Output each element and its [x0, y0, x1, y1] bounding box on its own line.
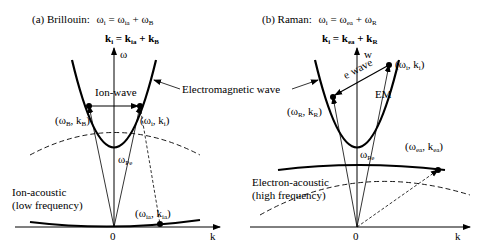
panel-a-incident-point: [137, 103, 143, 109]
panel-a-dashed-curve: [30, 133, 200, 156]
panel-a-scattered-label: (ωB, kB): [55, 114, 90, 128]
panel-a-k-equation: ki = kia + kB: [105, 32, 159, 46]
panel-b-scattered-label: (ωR, kR): [287, 105, 322, 119]
panel-a-incident-label: (ωi, ki): [140, 114, 170, 128]
panel-a-y-label: ω: [120, 48, 127, 60]
panel-a-wpe-label: ωPe: [118, 153, 132, 167]
panel-b-origin: 0: [353, 230, 359, 242]
panel-b-em-label: EM: [375, 88, 392, 100]
panel-b-electron-acoustic-sublabel: (high frequency): [252, 189, 326, 202]
panel-a-x-label: k: [210, 230, 216, 242]
panel-a-scattered-point: [86, 103, 92, 109]
panel-b-scattered-point: [330, 94, 336, 100]
em-wave-callout: Electromagnetic wave: [154, 80, 318, 95]
panel-a-ia-point: [157, 221, 163, 227]
panel-a-ion-acoustic-label: Ion-acoustic: [12, 186, 66, 198]
panel-b-electron-acoustic-curve: [278, 165, 445, 170]
panel-b-incident-point: [386, 62, 392, 68]
em-wave-pointer-left: [154, 80, 180, 89]
panel-a-ion-wave-label: Ion-wave: [95, 86, 137, 98]
panel-b-kr-vector: [333, 97, 357, 227]
panel-b-electron-acoustic-label: Electron-acoustic: [252, 176, 329, 188]
em-wave-pointer-right: [292, 80, 318, 89]
panel-b-ea-point: [435, 167, 441, 173]
panel-b-raman: (b) Raman: ωi = ωea + ωR ki = kea + kR w…: [250, 13, 470, 242]
panel-a-origin: 0: [110, 230, 116, 242]
em-wave-label: Electromagnetic wave: [182, 83, 280, 95]
panel-b-k-equation: ki = kea + kR: [322, 32, 378, 46]
panel-b-title: (b) Raman: ωi = ωea + ωR: [262, 13, 377, 27]
panel-b-wave-label: ewave: [341, 56, 374, 81]
panel-b-ea-point-label: (ωea, kea): [405, 140, 443, 154]
panel-b-kea-vector: [357, 170, 438, 227]
dispersion-diagram: (a) Brillouin: ωi = ωia + ωB ki = kia + …: [0, 0, 477, 246]
panel-b-x-label: k: [455, 230, 461, 242]
panel-a-ia-point-label: (ωia, kia): [135, 207, 171, 221]
panel-a-kb-vector: [89, 106, 114, 227]
panel-a-title: (a) Brillouin: ωi = ωia + ωB: [32, 13, 154, 27]
panel-a-brillouin: (a) Brillouin: ωi = ωia + ωB ki = kia + …: [12, 13, 220, 242]
panel-a-ion-acoustic-sublabel: (low frequency): [12, 199, 83, 212]
panel-b-incident-label: (ωi, ki): [395, 58, 425, 72]
